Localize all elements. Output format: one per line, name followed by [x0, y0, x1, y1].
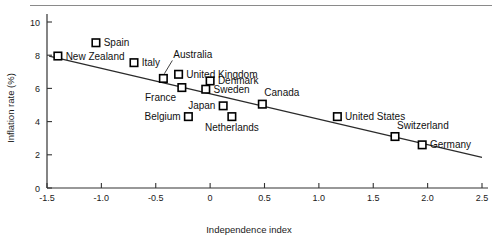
- x-axis: -1.5-1.0-0.500.51.01.52.02.5: [39, 183, 488, 203]
- data-point-marker: [160, 75, 168, 83]
- x-axis-title: Independence index: [206, 224, 292, 235]
- data-point-marker: [92, 39, 100, 47]
- y-tick-label: 4: [35, 117, 40, 127]
- y-axis: 0246810: [30, 14, 52, 194]
- data-point-label: Sweden: [214, 84, 250, 95]
- data-point-marker: [259, 100, 267, 108]
- x-tick-label: 1.5: [367, 193, 380, 203]
- data-point-marker: [228, 113, 236, 121]
- data-point-marker: [130, 59, 138, 67]
- data-point-label: New Zealand: [66, 51, 125, 62]
- data-point-label: Canada: [264, 87, 299, 98]
- data-point-marker: [391, 133, 399, 141]
- y-tick-label: 6: [35, 84, 40, 94]
- y-tick-label: 0: [35, 184, 40, 194]
- x-tick-label: 0: [208, 193, 213, 203]
- data-point-marker: [418, 141, 426, 149]
- data-point-label: Germany: [430, 139, 471, 150]
- scatter-plot-figure: 0246810 -1.5-1.0-0.500.51.01.52.02.5 Spa…: [0, 0, 499, 239]
- data-point-marker: [202, 85, 210, 93]
- data-point-marker: [219, 102, 227, 110]
- chart-svg: 0246810 -1.5-1.0-0.500.51.01.52.02.5 Spa…: [0, 0, 499, 239]
- data-point-label: Italy: [142, 57, 160, 68]
- y-tick-label: 10: [30, 18, 40, 28]
- x-tick-label: 0.5: [258, 193, 271, 203]
- x-tick-label: 2.0: [421, 193, 434, 203]
- x-tick-label: -1.0: [94, 193, 110, 203]
- data-point-label: Switzerland: [397, 120, 449, 131]
- x-tick-label: 2.5: [476, 193, 489, 203]
- x-tick-label: -1.5: [39, 193, 55, 203]
- data-point-marker: [178, 84, 186, 92]
- data-point-label: Japan: [188, 100, 215, 111]
- x-tick-label: 1.0: [313, 193, 326, 203]
- y-axis-title: Inflation rate (%): [5, 73, 16, 143]
- data-point-marker: [54, 52, 62, 60]
- data-point-label: Netherlands: [205, 122, 259, 133]
- data-point-label: France: [145, 92, 177, 103]
- data-point-label: Spain: [104, 37, 130, 48]
- x-tick-label: -0.5: [148, 193, 164, 203]
- data-point-marker: [185, 113, 193, 121]
- y-tick-label: 8: [35, 51, 40, 61]
- y-tick-label: 2: [35, 150, 40, 160]
- label-leader-line: [164, 60, 172, 73]
- data-point-marker: [334, 113, 342, 121]
- data-point-label: Australia: [173, 49, 212, 60]
- data-point-label: Belgium: [144, 111, 180, 122]
- data-points: SpainNew ZealandItalyAustraliaUnited Kin…: [54, 37, 471, 150]
- data-point-marker: [175, 71, 183, 79]
